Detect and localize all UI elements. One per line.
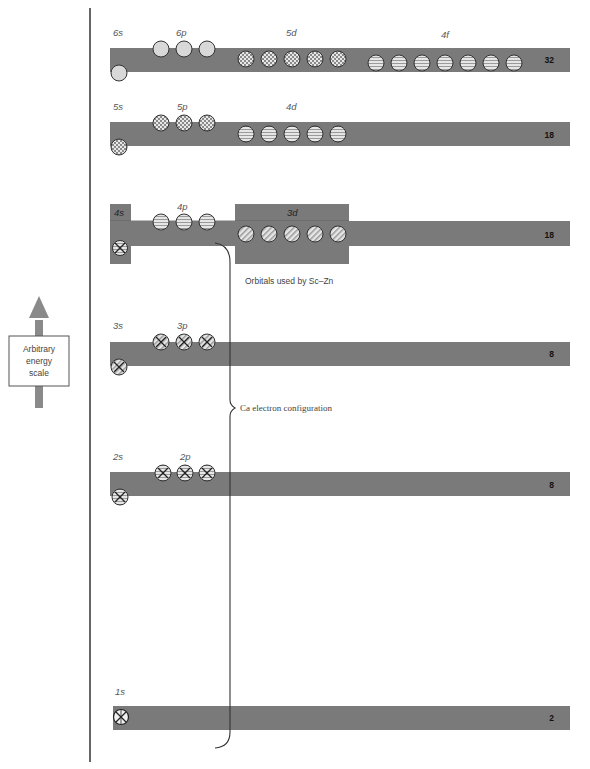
shell-5-level: 5s 5p 4d 18 (110, 101, 570, 155)
orbital-3d (307, 226, 323, 242)
orbital-3p (199, 334, 215, 350)
energy-scale-arrow: Arbitrary energy scale (9, 296, 69, 408)
orbital-4d (307, 126, 323, 142)
orbital-label-1s: 1s (115, 686, 125, 697)
orbital-2s (112, 489, 128, 505)
shell-4-level: 4s 4p 3d 18 Orbitals used by Sc–Zn (110, 201, 570, 286)
orbital-label-4s: 4s (114, 207, 124, 218)
orbital-4f (506, 55, 522, 71)
orbital-5p (153, 115, 169, 131)
orbital-4d (261, 126, 277, 142)
orbital-5d (330, 51, 346, 67)
energy-scale-label-2: energy (26, 356, 53, 366)
orbital-3p (153, 334, 169, 350)
energy-bar (113, 706, 570, 730)
orbital-6p (199, 41, 215, 57)
orbital-5d (238, 51, 254, 67)
orbital-2p (199, 465, 215, 481)
orbital-label-4d: 4d (286, 101, 297, 112)
orbital-5s (111, 139, 127, 155)
orbital-label-5s: 5s (113, 101, 123, 112)
ca-configuration-label: Ca electron configuration (240, 403, 332, 413)
orbital-label-4p: 4p (177, 201, 188, 212)
orbital-3s (111, 359, 127, 375)
shell-capacity: 8 (549, 349, 554, 359)
orbital-3d (238, 226, 254, 242)
orbital-label-3d: 3d (287, 207, 298, 218)
transition-metal-caption: Orbitals used by Sc–Zn (245, 276, 334, 286)
orbital-3d (261, 226, 277, 242)
orbital-4p (153, 214, 169, 230)
orbital-energy-diagram: Arbitrary energy scale 6s 6p 5d 4f 32 5s… (0, 0, 590, 769)
shell-capacity: 18 (545, 130, 555, 140)
orbital-label-2p: 2p (179, 451, 191, 462)
orbital-label-3p: 3p (177, 320, 188, 331)
orbital-1s (114, 710, 129, 725)
orbital-label-5p: 5p (177, 101, 188, 112)
orbital-label-5d: 5d (286, 27, 297, 38)
orbital-4d (238, 126, 254, 142)
orbital-6s (111, 65, 127, 81)
shell-capacity: 32 (545, 55, 555, 65)
energy-scale-label-3: scale (29, 368, 49, 378)
orbital-3p (176, 334, 192, 350)
orbital-4s (113, 241, 128, 256)
orbital-6p (176, 41, 192, 57)
shell-capacity: 18 (545, 230, 555, 240)
shell-6-level: 6s 6p 5d 4f 32 (110, 27, 570, 81)
orbital-4f (368, 55, 384, 71)
shell-1-level: 1s 2 (113, 686, 570, 730)
shell-3-level: 3s 3p 8 (110, 320, 570, 375)
orbital-4f (437, 55, 453, 71)
orbital-4f (391, 55, 407, 71)
shell-2-level: 2s 2p 8 (110, 451, 570, 505)
shell-capacity: 2 (549, 713, 554, 723)
orbital-label-2s: 2s (112, 451, 123, 462)
orbital-3d (284, 226, 300, 242)
orbital-5d (261, 51, 277, 67)
orbital-4f (483, 55, 499, 71)
orbital-4d (330, 126, 346, 142)
orbital-label-3s: 3s (113, 320, 123, 331)
orbital-4f (460, 55, 476, 71)
arrow-head-icon (29, 296, 49, 318)
orbital-5d (284, 51, 300, 67)
energy-scale-label-1: Arbitrary (23, 344, 56, 354)
orbital-4d (284, 126, 300, 142)
orbital-label-6s: 6s (113, 27, 123, 38)
orbital-4f (414, 55, 430, 71)
orbital-4p (199, 214, 215, 230)
orbital-6p (153, 41, 169, 57)
orbital-label-6p: 6p (176, 27, 187, 38)
shell-capacity: 8 (549, 480, 554, 490)
orbital-2p (155, 465, 171, 481)
orbital-3d (330, 226, 346, 242)
orbital-5p (199, 115, 215, 131)
orbital-5d (307, 51, 323, 67)
orbital-2p (177, 465, 193, 481)
orbital-4p (176, 214, 192, 230)
orbital-5p (176, 115, 192, 131)
orbital-label-4f: 4f (441, 29, 450, 40)
